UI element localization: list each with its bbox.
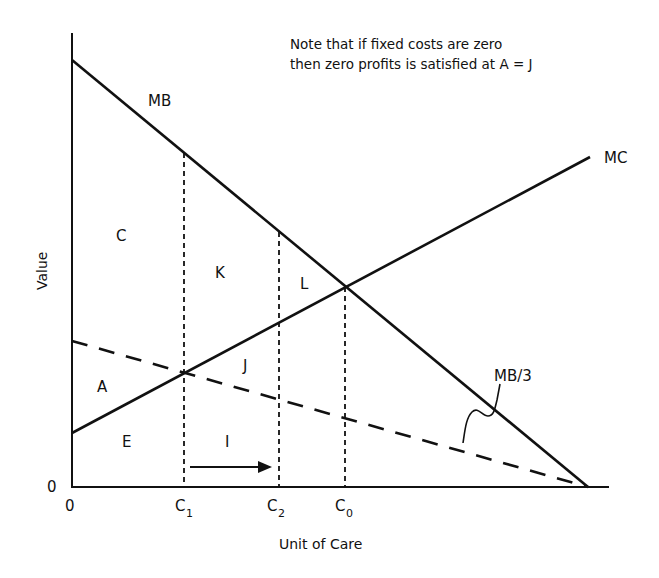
y-axis-title: Value xyxy=(34,252,50,290)
x-origin-label: 0 xyxy=(65,497,75,515)
region-l-label: L xyxy=(300,275,309,293)
region-i-label: I xyxy=(225,433,229,451)
region-a-label: A xyxy=(97,378,108,396)
svg-text:C: C xyxy=(175,497,185,515)
svg-text:C: C xyxy=(335,497,345,515)
mb3-curve xyxy=(72,341,588,487)
mc-label: MC xyxy=(604,149,627,167)
region-c-label: C xyxy=(116,227,126,245)
svg-text:0: 0 xyxy=(346,507,353,520)
mc-curve xyxy=(72,157,590,433)
arrow-c1-to-c2 xyxy=(190,461,272,473)
region-k-label: K xyxy=(215,264,226,282)
y-origin-label: 0 xyxy=(47,478,57,496)
x-axis-title: Unit of Care xyxy=(279,536,362,552)
note-line-1: Note that if fixed costs are zero xyxy=(290,36,502,52)
mb3-leader-squiggle xyxy=(463,384,500,443)
region-j-label: J xyxy=(242,357,247,375)
note-line-2: then zero profits is satisfied at A = J xyxy=(290,56,533,72)
mb3-label: MB/3 xyxy=(494,367,532,385)
tick-c0: C 0 xyxy=(335,497,353,520)
tick-c1: C 1 xyxy=(175,497,193,520)
svg-text:C: C xyxy=(267,497,277,515)
tick-c2: C 2 xyxy=(267,497,285,520)
svg-text:2: 2 xyxy=(278,507,285,520)
mb-label: MB xyxy=(148,92,171,110)
svg-text:1: 1 xyxy=(186,507,193,520)
mb-curve xyxy=(72,60,588,487)
care-value-diagram: Note that if fixed costs are zero then z… xyxy=(0,0,659,578)
region-e-label: E xyxy=(122,433,131,451)
